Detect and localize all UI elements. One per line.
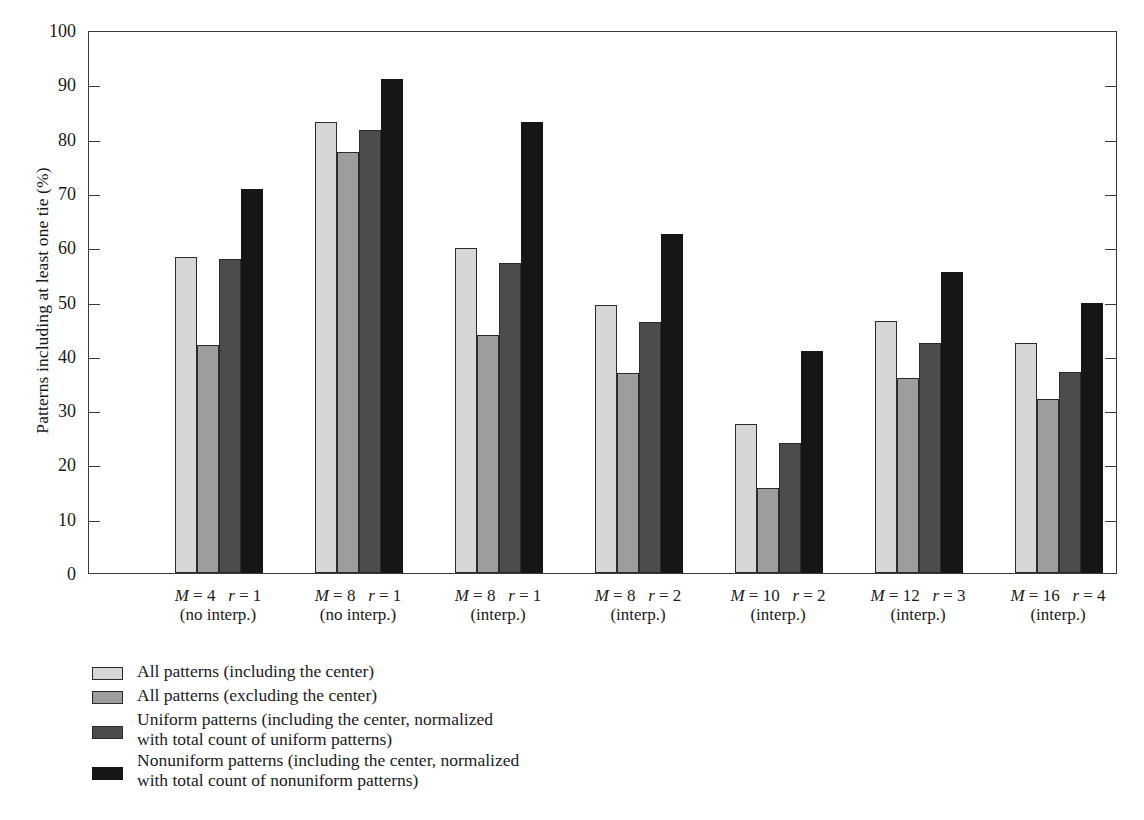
legend-label: All patterns (excluding the center) [137,686,377,706]
bar [801,351,823,573]
x-axis-group-label-line2: (no interp.) [315,605,402,624]
legend-label: Nonuniform patterns (including the cente… [137,751,519,790]
x-axis-group-label: M = 10 r = 2(interp.) [730,586,825,624]
x-axis-group-label-line1: M = 10 r = 2 [730,586,825,605]
bar [1081,303,1103,573]
bar [219,259,241,573]
x-axis-group-label: M = 8 r = 2(interp.) [595,586,682,624]
y-axis-tick [89,466,100,467]
y-axis-tick-label: 10 [0,511,76,529]
y-axis-tick-label: 70 [0,185,76,203]
y-axis-tick [1105,195,1116,196]
y-axis-tick [1105,141,1116,142]
legend-swatch [92,667,123,680]
chart-legend: All patterns (including the center)All p… [92,662,792,792]
y-axis-tick-label: 40 [0,348,76,366]
x-axis-group-label: M = 4 r = 1(no interp.) [175,586,262,624]
y-axis-tick [1105,412,1116,413]
legend-item: Nonuniform patterns (including the cente… [92,751,792,790]
y-axis-tick-label: 80 [0,131,76,149]
y-axis-tick-label: 30 [0,402,76,420]
bar [381,79,403,573]
bar [757,488,779,573]
y-axis-tick [89,141,100,142]
y-axis-tick [89,195,100,196]
x-axis-group-label-line1: M = 8 r = 1 [315,586,402,605]
legend-item: All patterns (including the center) [92,662,792,684]
x-axis-group-label-line2: (interp.) [595,605,682,624]
bar [735,424,757,573]
y-axis-tick-label: 0 [0,565,76,583]
x-axis-group-label: M = 8 r = 1(no interp.) [315,586,402,624]
bar-chart-figure: Patterns including at least one tie (%) … [0,0,1144,820]
bar [779,443,801,573]
bar [617,373,639,573]
y-axis-tick-label: 90 [0,76,76,94]
legend-swatch [92,691,123,704]
x-axis-group-label: M = 16 r = 4(interp.) [1010,586,1105,624]
x-axis-group-label-line1: M = 4 r = 1 [175,586,262,605]
x-axis-group-label-line1: M = 8 r = 2 [595,586,682,605]
plot-inner [89,32,1116,573]
y-axis-tick [1105,304,1116,305]
y-axis-tick [1105,358,1116,359]
bar [639,322,661,573]
x-axis-group-label-line2: (no interp.) [175,605,262,624]
x-axis-group-label-line1: M = 8 r = 1 [455,586,542,605]
x-axis-group-label: M = 12 r = 3(interp.) [870,586,965,624]
bar [919,343,941,573]
y-axis-tick [1105,249,1116,250]
x-axis-group-label-line2: (interp.) [455,605,542,624]
bar [197,345,219,573]
bar [499,263,521,573]
y-axis-tick [89,412,100,413]
y-axis-tick [89,358,100,359]
bar [941,272,963,573]
y-axis-tick-label: 50 [0,294,76,312]
bar [661,234,683,573]
legend-swatch [92,726,123,739]
y-axis-tick [89,304,100,305]
legend-label: Uniform patterns (including the center, … [137,710,493,749]
x-axis-group-label-line2: (interp.) [870,605,965,624]
y-axis-tick [89,86,100,87]
bar [175,257,197,573]
bar [1015,343,1037,573]
y-axis-tick-label: 20 [0,456,76,474]
legend-item: Uniform patterns (including the center, … [92,710,792,749]
bar [875,321,897,573]
x-axis-group-label-line1: M = 12 r = 3 [870,586,965,605]
y-axis-tick [89,249,100,250]
y-axis-tick-label: 100 [0,22,76,40]
x-axis-group-label: M = 8 r = 1(interp.) [455,586,542,624]
bar [897,378,919,573]
x-axis-group-label-line1: M = 16 r = 4 [1010,586,1105,605]
y-axis-tick [89,521,100,522]
bar [241,189,263,573]
bar [1059,372,1081,573]
bar [521,122,543,573]
bar [455,248,477,573]
y-axis-tick [1105,521,1116,522]
x-axis-group-label-line2: (interp.) [1010,605,1105,624]
bar [595,305,617,573]
bar [477,335,499,573]
legend-item: All patterns (excluding the center) [92,686,792,708]
x-axis-group-label-line2: (interp.) [730,605,825,624]
bar [359,130,381,573]
y-axis-tick [1105,466,1116,467]
legend-swatch [92,767,123,780]
legend-label: All patterns (including the center) [137,662,374,682]
plot-area [88,31,1117,574]
bar [1037,399,1059,573]
bar [337,152,359,573]
y-axis-tick-label: 60 [0,239,76,257]
y-axis-tick [1105,86,1116,87]
bar [315,122,337,573]
